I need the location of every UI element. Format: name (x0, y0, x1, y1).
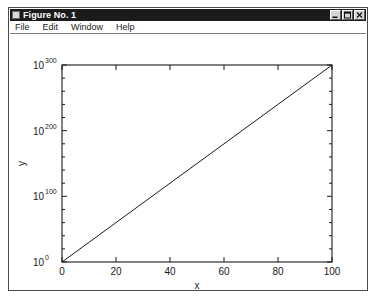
svg-text:40: 40 (164, 266, 176, 277)
svg-text:10: 10 (33, 60, 45, 71)
y-axis-label: y (16, 161, 27, 166)
title-bar[interactable]: Figure No. 1 (10, 9, 366, 21)
svg-text:100: 100 (45, 188, 57, 195)
close-icon (355, 11, 364, 19)
y-tick-labels: 100101001020010300 (33, 57, 57, 268)
svg-text:80: 80 (272, 266, 284, 277)
svg-text:0: 0 (59, 266, 65, 277)
menu-item-window[interactable]: Window (71, 21, 103, 33)
svg-text:20: 20 (110, 266, 122, 277)
figure-window: Figure No. 1 File Edit Wi (8, 7, 368, 291)
svg-text:10: 10 (33, 191, 45, 202)
menu-item-file[interactable]: File (15, 21, 30, 33)
window-menu-icon[interactable] (12, 11, 20, 19)
maximize-button[interactable] (342, 10, 353, 20)
svg-text:100: 100 (324, 266, 341, 277)
figure-canvas[interactable]: 020406080100 100101001020010300 xy (10, 34, 366, 289)
data-series-group (62, 65, 332, 262)
x-tick-labels: 020406080100 (59, 266, 341, 277)
svg-text:0: 0 (45, 254, 49, 261)
x-axis-label: x (195, 280, 200, 289)
minimize-icon (331, 11, 340, 19)
plot-area: 020406080100 100101001020010300 xy (10, 34, 366, 289)
svg-text:10: 10 (33, 126, 45, 137)
menu-bar: File Edit Window Help (10, 21, 366, 34)
svg-text:60: 60 (218, 266, 230, 277)
menu-item-help[interactable]: Help (116, 21, 135, 33)
minimize-button[interactable] (330, 10, 341, 20)
close-button[interactable] (354, 10, 365, 20)
screen: Figure No. 1 File Edit Wi (0, 0, 376, 300)
maximize-icon (343, 11, 352, 19)
svg-text:10: 10 (33, 257, 45, 268)
svg-text:300: 300 (45, 57, 57, 64)
window-title: Figure No. 1 (23, 9, 330, 21)
svg-text:200: 200 (45, 123, 57, 130)
menu-item-edit[interactable]: Edit (43, 21, 59, 33)
